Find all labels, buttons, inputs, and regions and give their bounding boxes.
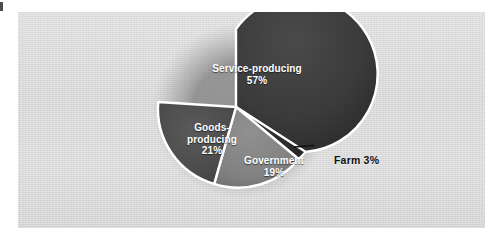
scan-artifact-icon	[0, 2, 3, 11]
pie-label-goods-producing: Goods- producing 21%	[179, 122, 245, 157]
pie-label-government-name: Government	[244, 155, 304, 166]
pie-label-farm: Farm 3%	[334, 154, 379, 166]
pie-label-goods-producing-name-line1: Goods-	[194, 122, 230, 133]
pie-label-service-producing-value: 57%	[201, 75, 313, 87]
pie-chart: Service-producing 57% Goods- producing 2…	[18, 12, 485, 228]
figure-root: Service-producing 57% Goods- producing 2…	[0, 0, 495, 246]
pie-label-service-producing-name: Service-producing	[212, 63, 302, 74]
pie-chart-svg	[18, 12, 485, 228]
pie-label-government-value: 19%	[236, 167, 312, 179]
pie-label-government: Government 19%	[236, 155, 312, 178]
pie-label-service-producing: Service-producing 57%	[201, 63, 313, 86]
chart-panel: Service-producing 57% Goods- producing 2…	[18, 12, 485, 228]
pie-label-goods-producing-name-line2: producing	[187, 134, 237, 145]
